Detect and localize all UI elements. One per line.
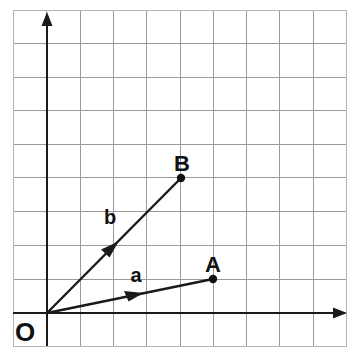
vector-diagram-figure: O A B a b	[0, 0, 353, 357]
label-point-b: B	[174, 151, 190, 176]
y-axis	[42, 12, 53, 346]
labels-group: O A B a b	[15, 151, 221, 347]
label-point-o: O	[15, 317, 35, 347]
y-axis-arrow-icon	[42, 12, 53, 26]
label-point-a: A	[205, 252, 221, 277]
label-vector-a: a	[130, 264, 142, 286]
label-vector-b: b	[104, 206, 116, 228]
vector-a-arrowhead-icon	[124, 291, 144, 302]
coordinate-grid-svg: O A B a b	[0, 0, 353, 357]
x-axis-arrow-icon	[333, 308, 347, 319]
